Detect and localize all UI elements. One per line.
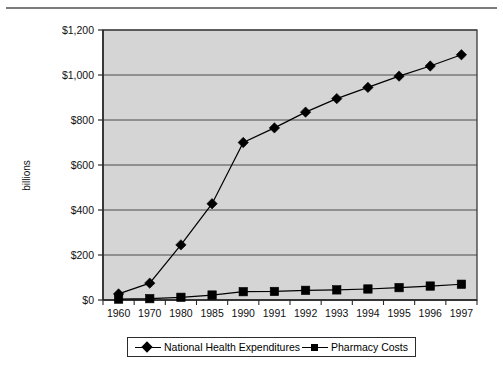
chart-figure: billions $0$200$400$600$800$1,000$1,2001… (0, 0, 503, 371)
diamond-marker-icon (135, 342, 161, 353)
data-point-square (239, 287, 247, 295)
data-point-square (114, 295, 122, 303)
x-tick-label: 1960 (107, 307, 131, 318)
data-point-square (426, 282, 434, 290)
y-tick-label: $1,000 (62, 69, 94, 81)
x-tick-label: 1993 (325, 307, 349, 318)
y-tick-label: $600 (71, 159, 95, 171)
x-tick-label: 1985 (200, 307, 224, 318)
x-tick-label: 1992 (294, 307, 318, 318)
data-point-square (208, 291, 216, 299)
y-tick-label: $400 (71, 204, 95, 216)
x-tick-label: 1980 (169, 307, 193, 318)
square-marker-icon (302, 342, 328, 353)
y-tick-label: $1,200 (62, 24, 94, 36)
legend-label-national-health-expenditures: National Health Expenditures (164, 341, 300, 353)
data-point-square (364, 285, 372, 293)
data-point-square (457, 280, 465, 288)
y-tick-label: $200 (71, 249, 95, 261)
data-point-square (301, 286, 309, 294)
plot-area-wrapper: billions $0$200$400$600$800$1,000$1,2001… (0, 18, 503, 318)
data-point-square (395, 283, 403, 291)
x-tick-label: 1991 (263, 307, 287, 318)
x-tick-label: 1990 (232, 307, 256, 318)
x-tick-label: 1997 (450, 307, 474, 318)
line-chart: $0$200$400$600$800$1,000$1,2001960197019… (0, 18, 503, 318)
x-tick-label: 1970 (138, 307, 162, 318)
chart-legend: National Health Expenditures Pharmacy Co… (127, 337, 416, 357)
x-tick-label: 1995 (387, 307, 411, 318)
legend-entry-national-health-expenditures: National Health Expenditures (135, 341, 300, 353)
legend-entry-pharmacy-costs: Pharmacy Costs (302, 341, 408, 353)
y-tick-label: $800 (71, 114, 95, 126)
data-point-square (333, 286, 341, 294)
data-point-square (177, 293, 185, 301)
legend-label-pharmacy-costs: Pharmacy Costs (331, 341, 408, 353)
page-top-rule (6, 7, 497, 9)
data-point-square (146, 294, 154, 302)
x-tick-label: 1996 (419, 307, 443, 318)
x-tick-label: 1994 (356, 307, 380, 318)
data-point-square (270, 287, 278, 295)
y-tick-label: $0 (82, 294, 94, 306)
